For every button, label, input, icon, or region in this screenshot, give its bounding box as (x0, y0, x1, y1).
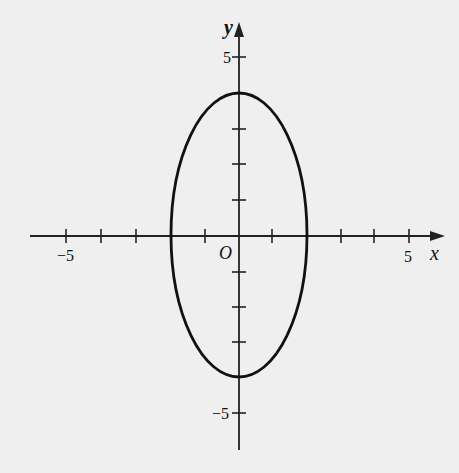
ellipse-diagram: y x O −5 5 5 −5 (0, 0, 459, 473)
y-axis-label: y (222, 16, 233, 39)
y-axis-arrow-icon (234, 22, 244, 37)
x-axis-label: x (429, 242, 439, 264)
x-tick-label-neg5: −5 (57, 247, 74, 264)
x-axis-arrow-icon (430, 231, 445, 241)
y-tick-label-neg5: −5 (212, 405, 229, 422)
x-tick-label-5: 5 (404, 248, 412, 265)
origin-label: O (219, 243, 232, 263)
y-tick-label-5: 5 (223, 49, 231, 66)
